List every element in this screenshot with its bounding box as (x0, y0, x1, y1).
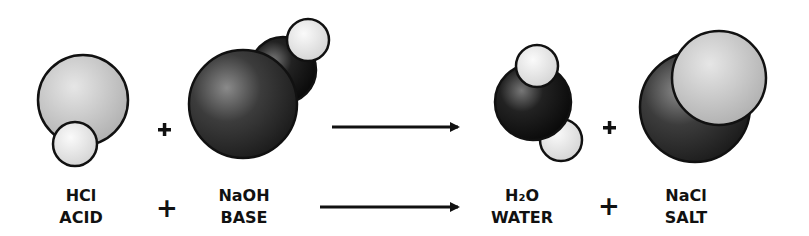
h2o-formula: H₂O (462, 185, 582, 207)
salt-name: SALT (626, 207, 746, 229)
plus-sign: + (152, 195, 182, 221)
plus-sign: + (594, 193, 624, 219)
acid-name: ACID (21, 207, 141, 229)
hydrogen-atom-icon (53, 122, 97, 166)
plus-icon (158, 123, 171, 136)
nacl-label: NaCl SALT (626, 185, 746, 229)
hcl-label: HCl ACID (21, 185, 141, 229)
water-molecule-icon (495, 45, 582, 161)
sodium-atom-icon (189, 50, 297, 158)
hydrogen-atom-icon (516, 45, 558, 87)
base-name: BASE (184, 207, 304, 229)
chlorine-atom-icon (672, 31, 766, 125)
naoh-label: NaOH BASE (184, 185, 304, 229)
nacl-molecule-icon (640, 31, 766, 162)
hcl-molecule-icon (38, 55, 128, 166)
hcl-formula: HCl (21, 185, 141, 207)
water-name: WATER (462, 207, 582, 229)
naoh-formula: NaOH (184, 185, 304, 207)
hydrogen-atom-icon (287, 19, 329, 61)
plus-icon (603, 121, 616, 134)
naoh-molecule-icon (189, 19, 329, 158)
nacl-formula: NaCl (626, 185, 746, 207)
h2o-label: H₂O WATER (462, 185, 582, 229)
